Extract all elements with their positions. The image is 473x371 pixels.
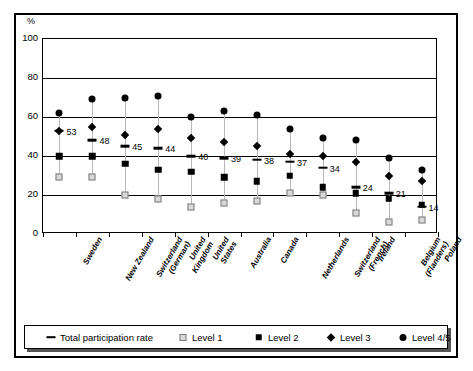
open-square-marker bbox=[385, 219, 392, 226]
open-square-marker bbox=[253, 197, 260, 204]
filled-square-marker bbox=[89, 153, 96, 160]
circle-marker bbox=[155, 92, 162, 99]
filled-square-marker bbox=[287, 172, 294, 179]
diamond-marker bbox=[351, 158, 359, 166]
open-square-marker bbox=[56, 174, 63, 181]
x-axis-category-label: Canada bbox=[279, 236, 301, 265]
data-label: 39 bbox=[231, 154, 241, 163]
diamond-marker bbox=[187, 134, 195, 142]
circle-marker bbox=[56, 110, 63, 117]
circle-marker bbox=[188, 114, 195, 121]
filled-square-marker bbox=[155, 166, 162, 173]
dash-marker bbox=[187, 155, 196, 158]
data-label: 53 bbox=[66, 127, 76, 136]
data-label: 24 bbox=[363, 184, 373, 193]
open-square-marker bbox=[418, 217, 425, 224]
y-axis-unit-label: % bbox=[27, 17, 35, 26]
category-stem bbox=[356, 140, 357, 212]
legend-item[interactable]: Total participation rate bbox=[45, 332, 153, 343]
open-square-marker bbox=[89, 174, 96, 181]
filled-square-marker bbox=[221, 174, 228, 181]
legend-item[interactable]: Level 4/5 bbox=[397, 332, 451, 343]
dash-marker bbox=[252, 159, 261, 162]
dash-marker bbox=[285, 161, 294, 164]
data-label: 14 bbox=[429, 203, 439, 212]
diamond-marker bbox=[253, 142, 261, 150]
circle-marker bbox=[385, 154, 392, 161]
dash-marker bbox=[318, 166, 327, 169]
diamond-marker bbox=[286, 150, 294, 158]
dash-marker bbox=[45, 332, 56, 343]
diamond-marker bbox=[121, 130, 129, 138]
open-square-marker bbox=[352, 209, 359, 216]
category-stem bbox=[59, 113, 60, 177]
diamond-marker bbox=[220, 138, 228, 146]
circle-marker bbox=[253, 112, 260, 119]
x-axis-category-label: New Zealand bbox=[125, 236, 157, 283]
category-stem bbox=[191, 117, 192, 207]
open-square-marker bbox=[319, 192, 326, 199]
x-axis-tick bbox=[438, 232, 439, 237]
legend-item[interactable]: Level 1 bbox=[177, 332, 223, 343]
filled-square-marker bbox=[56, 153, 63, 160]
x-axis-labels: SwedenNew ZealandSwitzerland(German)Unit… bbox=[42, 236, 437, 318]
dash-marker bbox=[351, 186, 360, 189]
data-label: 34 bbox=[330, 164, 340, 173]
dash-marker bbox=[154, 147, 163, 150]
open-square-marker bbox=[122, 192, 129, 199]
x-axis-category-label: Australia bbox=[249, 236, 274, 270]
diamond-marker bbox=[319, 152, 327, 160]
open-square-marker bbox=[177, 332, 188, 343]
data-label: 38 bbox=[264, 156, 274, 165]
filled-square-marker bbox=[385, 196, 392, 203]
dash-marker bbox=[88, 139, 97, 142]
circle-marker bbox=[319, 135, 326, 142]
circle-marker bbox=[89, 96, 96, 103]
legend-label: Level 2 bbox=[268, 332, 299, 342]
legend-label: Level 1 bbox=[192, 332, 223, 342]
data-label: 37 bbox=[297, 158, 307, 167]
circle-marker bbox=[352, 137, 359, 144]
y-axis-tick-label: 80 bbox=[14, 72, 38, 82]
legend-item[interactable]: Level 2 bbox=[253, 332, 299, 343]
open-square-marker bbox=[221, 199, 228, 206]
data-label: 21 bbox=[396, 190, 406, 199]
dash-marker bbox=[417, 205, 426, 208]
gridline bbox=[43, 78, 436, 79]
x-axis-category-label: Sweden bbox=[83, 236, 106, 266]
legend-label: Level 3 bbox=[340, 332, 371, 342]
x-axis-category-label: UnitedStates bbox=[212, 236, 239, 266]
y-axis-tick-label: 20 bbox=[14, 189, 38, 199]
data-label: 40 bbox=[198, 153, 208, 162]
circle-marker bbox=[286, 125, 293, 132]
y-axis-tick-label: 100 bbox=[14, 33, 38, 43]
dash-marker bbox=[384, 192, 393, 195]
filled-square-marker bbox=[352, 190, 359, 197]
circle-marker bbox=[397, 332, 408, 343]
legend-item[interactable]: Level 3 bbox=[325, 332, 371, 343]
data-label: 45 bbox=[132, 143, 142, 152]
y-axis-tick-label: 0 bbox=[14, 228, 38, 238]
diamond-marker bbox=[88, 123, 96, 131]
filled-square-marker bbox=[320, 184, 327, 191]
chart-legend: Total participation rateLevel 1Level 2Le… bbox=[24, 325, 448, 349]
y-axis-tick-label: 40 bbox=[14, 150, 38, 160]
diamond-marker bbox=[325, 332, 336, 343]
filled-square-marker bbox=[254, 178, 261, 185]
chart-screenshot: % 020406080100 534845444039383734242114 … bbox=[0, 0, 473, 371]
dash-marker bbox=[121, 145, 130, 148]
open-square-marker bbox=[155, 195, 162, 202]
legend-label: Level 4/5 bbox=[412, 332, 451, 342]
legend-label: Total participation rate bbox=[60, 332, 153, 342]
category-stem bbox=[389, 158, 390, 222]
dash-marker bbox=[220, 157, 229, 160]
plot-area: 534845444039383734242114 bbox=[42, 38, 437, 233]
gridline bbox=[43, 195, 436, 196]
circle-marker bbox=[221, 108, 228, 115]
filled-square-marker bbox=[188, 168, 195, 175]
open-square-marker bbox=[188, 203, 195, 210]
y-axis: 020406080100 bbox=[12, 38, 38, 233]
filled-square-marker bbox=[253, 332, 264, 343]
circle-marker bbox=[122, 94, 129, 101]
diamond-marker bbox=[417, 177, 425, 185]
